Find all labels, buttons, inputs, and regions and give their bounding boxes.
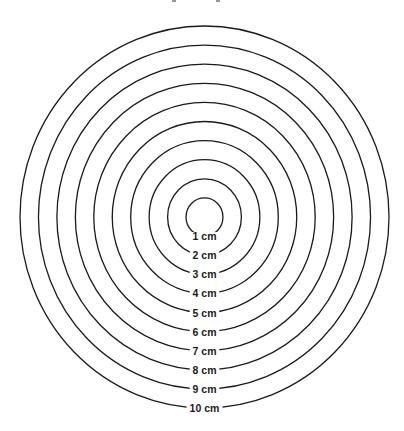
radius-label-2cm: 2 cm bbox=[193, 249, 217, 261]
circle-8cm bbox=[57, 64, 352, 370]
radius-label-7cm: 7 cm bbox=[193, 345, 217, 357]
radius-label-1cm: 1 cm bbox=[193, 230, 217, 242]
radius-label-9cm: 9 cm bbox=[193, 383, 217, 395]
radius-label-6cm: 6 cm bbox=[193, 326, 217, 338]
radius-label-8cm: 8 cm bbox=[193, 364, 217, 376]
circle-2cm bbox=[168, 179, 242, 255]
cut-off-top-text bbox=[172, 0, 220, 2]
concentric-circles-diagram: 1 cm2 cm3 cm4 cm5 cm6 cm7 cm8 cm9 cm10 c… bbox=[0, 0, 404, 431]
radius-label-5cm: 5 cm bbox=[193, 307, 217, 319]
circle-5cm bbox=[112, 122, 297, 313]
radius-label-3cm: 3 cm bbox=[193, 268, 217, 280]
labels-group: 1 cm2 cm3 cm4 cm5 cm6 cm7 cm8 cm9 cm10 c… bbox=[187, 230, 223, 414]
text-fragment bbox=[172, 0, 176, 2]
text-fragment bbox=[216, 0, 220, 2]
radius-label-10cm: 10 cm bbox=[190, 402, 220, 414]
radius-label-4cm: 4 cm bbox=[193, 287, 217, 299]
